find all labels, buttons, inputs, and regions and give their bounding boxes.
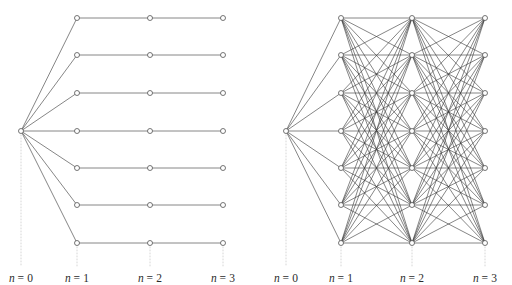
graph-node (148, 129, 153, 134)
graph-node (148, 241, 153, 246)
graph-node (75, 241, 80, 246)
graph-node (148, 91, 153, 96)
axis-label-eq: = 1 (73, 272, 89, 284)
graph-edges (286, 18, 485, 243)
graph-nodes (284, 16, 488, 246)
graph-node (339, 166, 344, 171)
graph-node-root (19, 129, 24, 134)
complete-layered-graph-svg (256, 0, 512, 285)
graph-node (410, 241, 415, 246)
graph-node (410, 16, 415, 21)
figure-canvas: n = 0 n = 1 n = 2 n = 3 n = 0 n = 1 n = … (0, 0, 512, 285)
graph-node (410, 203, 415, 208)
graph-edges (21, 18, 223, 243)
panel-sparse-chain-graph: n = 0 n = 1 n = 2 n = 3 (0, 0, 256, 285)
axis-label-eq: = 3 (481, 272, 497, 284)
axis-label-n0-right: n = 0 (274, 272, 298, 284)
graph-node (483, 241, 488, 246)
graph-edge (21, 18, 77, 131)
graph-node (483, 166, 488, 171)
graph-edge (286, 55, 341, 131)
graph-node (410, 91, 415, 96)
graph-node (148, 53, 153, 58)
graph-node (75, 53, 80, 58)
graph-nodes (19, 16, 226, 246)
axis-label-n1-left: n = 1 (65, 272, 89, 284)
graph-node (339, 203, 344, 208)
graph-node (75, 203, 80, 208)
panel-complete-layered-graph: n = 0 n = 1 n = 2 n = 3 (256, 0, 512, 285)
sparse-chain-graph-svg (0, 0, 256, 285)
graph-edge (21, 93, 77, 131)
graph-node (221, 241, 226, 246)
graph-node (339, 241, 344, 246)
graph-node (148, 203, 153, 208)
graph-node (75, 16, 80, 21)
graph-node (483, 53, 488, 58)
graph-node (221, 129, 226, 134)
graph-node (221, 91, 226, 96)
axis-label-eq: = 0 (282, 272, 298, 284)
axis-label-n2-right: n = 2 (400, 272, 424, 284)
graph-node (483, 129, 488, 134)
graph-edge (286, 131, 341, 205)
axis-label-n3-left: n = 3 (211, 272, 235, 284)
graph-node (339, 91, 344, 96)
axis-label-n0-left: n = 0 (9, 272, 33, 284)
axis-label-eq: = 1 (337, 272, 353, 284)
graph-node (148, 166, 153, 171)
graph-node (221, 53, 226, 58)
graph-node (410, 166, 415, 171)
axis-label-n2-left: n = 2 (138, 272, 162, 284)
graph-edge (286, 131, 341, 168)
graph-edge (21, 131, 77, 243)
graph-node (410, 53, 415, 58)
axis-label-eq: = 3 (219, 272, 235, 284)
graph-node (483, 16, 488, 21)
graph-edge (21, 55, 77, 131)
axis-label-eq: = 2 (146, 272, 162, 284)
graph-edge (286, 18, 341, 131)
axis-label-n1-right: n = 1 (329, 272, 353, 284)
graph-node-root (284, 129, 289, 134)
graph-node (483, 203, 488, 208)
axis-label-n3-right: n = 3 (473, 272, 497, 284)
graph-node (75, 166, 80, 171)
graph-node (221, 203, 226, 208)
graph-node (339, 129, 344, 134)
axis-label-eq: = 2 (408, 272, 424, 284)
axis-label-eq: = 0 (17, 272, 33, 284)
graph-node (410, 129, 415, 134)
column-guide-lines (21, 135, 223, 266)
graph-edge (21, 131, 77, 168)
graph-node (221, 166, 226, 171)
graph-node (148, 16, 153, 21)
graph-node (483, 91, 488, 96)
graph-node (75, 129, 80, 134)
graph-edge (286, 131, 341, 243)
graph-node (75, 91, 80, 96)
graph-edge (286, 93, 341, 131)
graph-node (221, 16, 226, 21)
graph-node (339, 53, 344, 58)
graph-edge (21, 131, 77, 205)
graph-node (339, 16, 344, 21)
